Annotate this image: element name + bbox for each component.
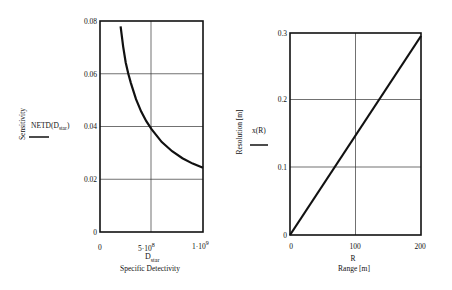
right-chart: 0.3 0.2 0.1 0 0 100 200 R Range [m] Reso… [235, 29, 426, 273]
left-ytick-0.08: 0.08 [84, 17, 97, 26]
left-xtick-1e9: 1·109 [192, 240, 209, 251]
right-ytick-0.3: 0.3 [278, 29, 288, 38]
left-chart: 0.08 0.06 0.04 0.02 0 0 5·108 1·109 Dsta… [18, 17, 209, 273]
right-ytick-0.1: 0.1 [278, 163, 288, 172]
right-ytick-0: 0 [283, 231, 287, 240]
right-x-variable: R [350, 254, 355, 263]
right-xtick-200: 200 [414, 242, 426, 251]
left-ytick-0.02: 0.02 [84, 175, 97, 184]
right-x-label: Range [m] [338, 264, 370, 273]
left-legend-netd: NETD(Dstar) [31, 121, 70, 131]
left-ytick-0.04: 0.04 [84, 122, 97, 131]
figure: 0.08 0.06 0.04 0.02 0 0 5·108 1·109 Dsta… [0, 0, 452, 290]
right-ytick-0.2: 0.2 [278, 95, 288, 104]
right-y-label: Resolution [m] [235, 109, 244, 154]
right-legend-xr: x(R) [252, 126, 266, 135]
left-x-label: Specific Detectivity [120, 264, 180, 273]
left-xtick-0: 0 [98, 243, 102, 252]
left-grid [100, 21, 203, 232]
left-curve-netd [121, 26, 203, 168]
left-x-variable: Dstar [145, 252, 159, 263]
left-y-label: Sensitivity [18, 108, 27, 140]
left-ytick-0.06: 0.06 [84, 70, 97, 79]
right-xtick-0: 0 [289, 242, 293, 251]
right-xtick-100: 100 [349, 242, 361, 251]
left-ytick-0: 0 [93, 228, 97, 237]
